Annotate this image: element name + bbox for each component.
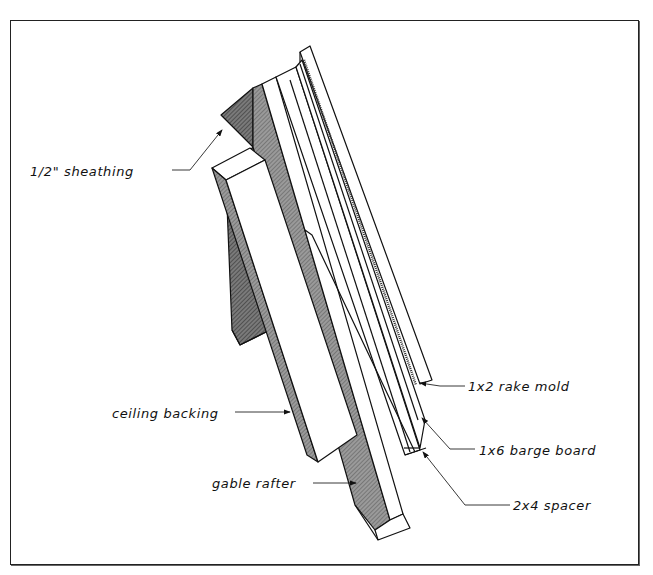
- label-rake-mold: 1x2 rake mold: [468, 379, 570, 394]
- label-barge-board: 1x6 barge board: [479, 443, 596, 458]
- label-spacer: 2x4 spacer: [513, 498, 592, 513]
- label-sheathing: 1/2" sheathing: [30, 164, 134, 179]
- label-gable-rafter: gable rafter: [212, 476, 297, 491]
- label-ceiling-backing: ceiling backing: [112, 406, 219, 421]
- gable-rake-diagram: 1/2" sheathing ceiling backing gable raf…: [0, 0, 653, 575]
